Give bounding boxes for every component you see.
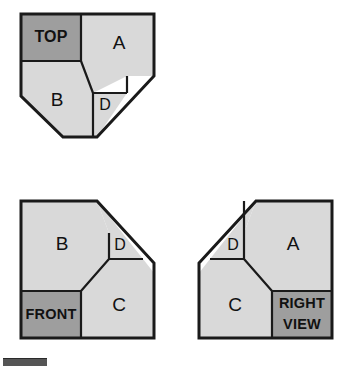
label-b-top-view: B xyxy=(51,89,64,110)
label-right-view-line1: RIGHT xyxy=(279,295,325,311)
label-d-right-view: D xyxy=(227,236,239,253)
view-front: B D FRONT C xyxy=(21,201,154,338)
label-c-front-view: C xyxy=(112,294,126,315)
label-front: FRONT xyxy=(26,306,77,322)
view-top: TOP A B D xyxy=(21,14,154,151)
page-marker-bar xyxy=(3,358,47,366)
label-d-top-view: D xyxy=(99,96,111,113)
view-right-side: D A C RIGHT VIEW xyxy=(199,201,332,338)
label-a-right-view: A xyxy=(287,233,300,254)
diagram-canvas: TOP A B D B D FRONT C D A C RIGHT VIEW xyxy=(0,0,354,371)
label-right-view-line2: VIEW xyxy=(283,316,321,332)
label-d-front-view: D xyxy=(114,236,126,253)
label-b-front-view: B xyxy=(56,233,69,254)
label-c-right-view: C xyxy=(228,294,242,315)
face-a xyxy=(81,14,154,93)
label-a-top-view: A xyxy=(113,32,126,53)
label-top: TOP xyxy=(34,28,67,45)
